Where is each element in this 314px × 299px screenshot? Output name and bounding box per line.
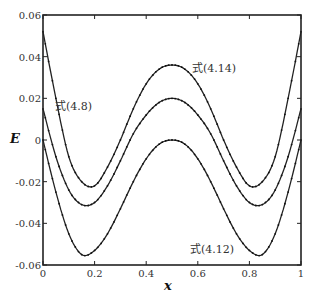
data-marker [91, 252, 93, 254]
data-marker [181, 100, 183, 102]
line-chart: 00.20.40.60.81 -0.06-0.04-0.0200.020.040… [0, 0, 314, 299]
data-marker [184, 143, 186, 145]
data-marker [194, 78, 196, 80]
data-marker [55, 97, 57, 99]
data-marker [274, 156, 276, 158]
data-marker [152, 107, 154, 109]
data-marker [44, 117, 46, 119]
data-marker [213, 139, 215, 141]
data-marker [210, 108, 212, 110]
data-marker [268, 172, 270, 174]
data-marker [261, 204, 263, 206]
data-marker [100, 195, 102, 197]
data-marker [120, 160, 122, 162]
data-marker [265, 251, 267, 253]
data-marker [152, 149, 154, 151]
annotation-4-14: 式(4.14) [192, 62, 236, 75]
data-marker [255, 186, 257, 188]
data-marker [161, 66, 163, 68]
data-marker [155, 71, 157, 73]
data-marker [191, 107, 193, 109]
data-marker [187, 71, 189, 73]
data-marker [68, 156, 70, 158]
data-marker [145, 83, 147, 85]
data-marker [103, 238, 105, 240]
data-marker [149, 153, 151, 155]
data-marker [168, 139, 170, 141]
data-marker [158, 68, 160, 70]
data-marker [107, 233, 109, 235]
data-marker [229, 221, 231, 223]
data-marker [178, 65, 180, 67]
data-marker [207, 101, 209, 103]
data-marker [52, 144, 54, 146]
data-marker [165, 65, 167, 67]
data-marker [110, 160, 112, 162]
data-marker [100, 243, 102, 245]
data-marker [129, 139, 131, 141]
data-marker [44, 43, 46, 45]
data-marker [191, 149, 193, 151]
series-line-1 [43, 98, 301, 205]
x-tick-labels: 00.20.40.60.81 [40, 268, 304, 279]
data-marker [268, 246, 270, 248]
data-marker [242, 195, 244, 197]
data-marker [203, 123, 205, 125]
data-marker [142, 163, 144, 165]
data-marker [236, 233, 238, 235]
x-axis-title: x [163, 278, 172, 293]
data-marker [158, 102, 160, 104]
data-marker [78, 251, 80, 253]
data-marker [274, 189, 276, 191]
data-marker [171, 139, 173, 141]
data-marker [181, 66, 183, 68]
data-marker [278, 182, 280, 184]
data-marker [207, 127, 209, 129]
data-marker [232, 227, 234, 229]
data-marker [265, 202, 267, 204]
data-marker [236, 166, 238, 168]
data-marker [281, 129, 283, 131]
data-marker [295, 130, 297, 132]
data-marker [78, 177, 80, 179]
data-marker [197, 158, 199, 160]
data-marker [87, 186, 89, 188]
data-marker [197, 83, 199, 85]
data-marker [100, 178, 102, 180]
data-marker [220, 131, 222, 133]
data-marker [65, 144, 67, 146]
data-marker [184, 102, 186, 104]
data-marker [223, 208, 225, 210]
data-marker [249, 250, 251, 252]
data-marker [84, 205, 86, 207]
data-marker [107, 185, 109, 187]
data-marker [71, 240, 73, 242]
data-marker [229, 153, 231, 155]
data-marker [165, 140, 167, 142]
data-marker [55, 191, 57, 193]
data-marker [226, 167, 228, 169]
data-marker [155, 104, 157, 106]
data-marker [44, 149, 46, 151]
data-marker [123, 201, 125, 203]
data-marker [97, 199, 99, 201]
data-marker [232, 179, 234, 181]
data-marker [216, 194, 218, 196]
data-marker [97, 246, 99, 248]
data-marker [271, 165, 273, 167]
data-marker [223, 160, 225, 162]
data-marker [281, 214, 283, 216]
data-marker [132, 181, 134, 183]
data-marker [223, 139, 225, 141]
data-marker [155, 146, 157, 148]
data-marker [52, 80, 54, 82]
data-marker [126, 194, 128, 196]
data-marker [91, 204, 93, 206]
data-marker [116, 214, 118, 216]
data-marker [103, 172, 105, 174]
data-marker [220, 153, 222, 155]
y-tick-label: -0.04 [15, 218, 41, 229]
data-marker [139, 94, 141, 96]
data-marker [245, 199, 247, 201]
data-marker [52, 178, 54, 180]
